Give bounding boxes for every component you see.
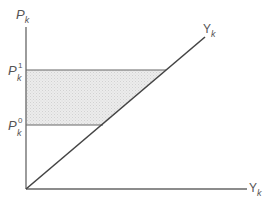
diagram: Pk Yk Yk P 1 k P 0 k [0,0,271,203]
x-axis-label: Yk [249,181,262,198]
y-axis-label: Pk [16,7,30,25]
level-low-sup: 0 [18,116,23,125]
shaded-region [26,70,165,125]
level-low-sub: k [17,128,22,138]
level-high-label: P [8,63,17,78]
level-high-sup: 1 [18,61,23,70]
diagonal-label: Yk [203,22,216,39]
level-low-label: P [8,118,17,133]
level-high-sub: k [17,73,22,83]
